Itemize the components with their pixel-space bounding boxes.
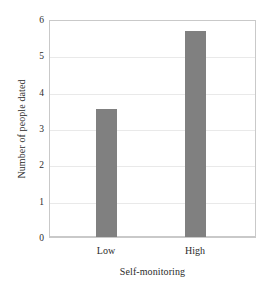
x-axis-title: Self-monitoring bbox=[49, 266, 256, 277]
plot-area bbox=[49, 20, 256, 238]
x-tick-label-high: High bbox=[160, 244, 230, 258]
y-tick-label-1: 1 bbox=[28, 196, 44, 208]
y-tick-label-6: 6 bbox=[28, 14, 44, 26]
gridline-1 bbox=[50, 203, 255, 204]
x-tick-label-low: Low bbox=[71, 244, 141, 258]
gridline-3 bbox=[50, 130, 255, 131]
y-tick-label-3: 3 bbox=[28, 123, 44, 135]
gridline-4 bbox=[50, 94, 255, 95]
y-tick-label-0: 0 bbox=[28, 232, 44, 244]
bar-high bbox=[185, 31, 206, 237]
gridline-2 bbox=[50, 166, 255, 167]
gridline-5 bbox=[50, 57, 255, 58]
bar-chart-figure: Number of people dated 0 1 2 3 4 5 6 Low… bbox=[0, 0, 274, 293]
bar-low bbox=[96, 109, 117, 237]
y-tick-label-4: 4 bbox=[28, 87, 44, 99]
y-tick-label-2: 2 bbox=[28, 159, 44, 171]
y-tick-label-5: 5 bbox=[28, 50, 44, 62]
x-axis-line bbox=[50, 236, 255, 237]
